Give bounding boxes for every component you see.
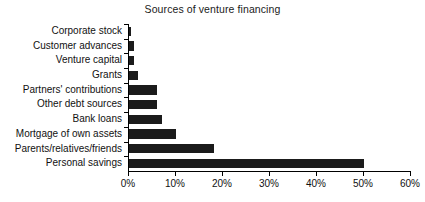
bar: [129, 159, 364, 168]
chart-title: Sources of venture financing: [0, 3, 425, 15]
x-axis-tick-label: 40%: [296, 178, 336, 190]
bar: [129, 100, 157, 109]
bar: [129, 71, 138, 80]
x-axis-tick: [128, 171, 129, 176]
bar: [129, 129, 176, 138]
x-axis-tick: [363, 171, 364, 176]
category-label: Partners' contributions: [0, 83, 122, 98]
bar-row: Partners' contributions: [128, 83, 410, 98]
x-axis-tick: [222, 171, 223, 176]
y-axis-tick: [124, 127, 128, 128]
y-axis-tick: [124, 24, 128, 25]
x-axis-tick-label: 60%: [390, 178, 425, 190]
category-label: Personal savings: [0, 156, 122, 171]
bar-row: Corporate stock: [128, 24, 410, 39]
category-label: Venture capital: [0, 53, 122, 68]
y-axis-tick: [124, 83, 128, 84]
y-axis-tick: [124, 156, 128, 157]
bar-row: Venture capital: [128, 53, 410, 68]
y-axis-tick: [124, 39, 128, 40]
x-axis-tick-label: 50%: [343, 178, 383, 190]
category-label: Grants: [0, 68, 122, 83]
y-axis-tick: [124, 53, 128, 54]
x-axis-tick-label: 10%: [155, 178, 195, 190]
bar-row: Other debt sources: [128, 97, 410, 112]
category-label: Mortgage of own assets: [0, 127, 122, 142]
bar-row: Customer advances: [128, 39, 410, 54]
plot-area: Corporate stockCustomer advancesVenture …: [128, 24, 410, 171]
category-label: Customer advances: [0, 39, 122, 54]
y-axis-tick: [124, 97, 128, 98]
x-axis-tick: [175, 171, 176, 176]
bar-rows: Corporate stockCustomer advancesVenture …: [128, 24, 410, 171]
bar: [129, 115, 162, 124]
bar: [129, 56, 134, 65]
category-label: Bank loans: [0, 112, 122, 127]
category-label: Corporate stock: [0, 24, 122, 39]
x-axis-tick-label: 0%: [108, 178, 148, 190]
category-label: Other debt sources: [0, 97, 122, 112]
x-axis-tick-label: 20%: [202, 178, 242, 190]
x-axis-tick: [269, 171, 270, 176]
x-axis-tick: [316, 171, 317, 176]
x-axis-tick-label: 30%: [249, 178, 289, 190]
bar: [129, 144, 214, 153]
bar-row: Parents/relatives/friends: [128, 142, 410, 157]
bar: [129, 85, 157, 94]
y-axis-tick: [124, 142, 128, 143]
y-axis-tick: [124, 112, 128, 113]
y-axis-tick: [124, 68, 128, 69]
bar-row: Mortgage of own assets: [128, 127, 410, 142]
bar-row: Grants: [128, 68, 410, 83]
bar-row: Bank loans: [128, 112, 410, 127]
bar-row: Personal savings: [128, 156, 410, 171]
bar: [129, 27, 131, 36]
category-label: Parents/relatives/friends: [0, 142, 122, 157]
bar: [129, 41, 134, 50]
x-axis-tick: [410, 171, 411, 176]
bar-chart: Sources of venture financing Corporate s…: [0, 0, 425, 202]
